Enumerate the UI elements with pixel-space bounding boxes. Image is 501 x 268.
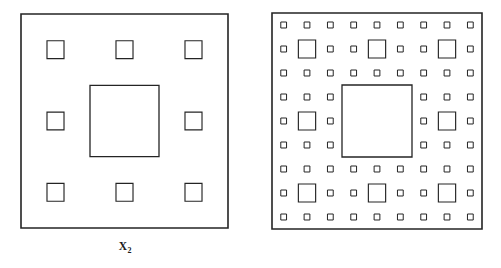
carpet-hole-level-3 <box>374 70 380 76</box>
carpet-hole-level-2 <box>438 184 455 202</box>
carpet-hole-level-3 <box>281 190 287 196</box>
figure-panel-x2: X2 <box>0 0 250 268</box>
carpet-hole-level-3 <box>304 70 310 76</box>
carpet-hole-level-3 <box>327 166 333 172</box>
carpet-hole-level-3 <box>467 22 473 28</box>
carpet-hole-level-2 <box>185 112 202 130</box>
carpet-hole-level-3 <box>467 142 473 148</box>
carpet-hole-level-2 <box>438 112 455 130</box>
carpet-hole-level-3 <box>327 22 333 28</box>
carpet-hole-level-3 <box>397 22 403 28</box>
carpet-hole-level-2 <box>185 183 202 201</box>
carpet-hole-level-3 <box>304 142 310 148</box>
carpet-hole-level-3 <box>421 22 427 28</box>
carpet-hole-level-3 <box>351 214 357 220</box>
carpet-hole-level-2 <box>47 183 64 201</box>
carpet-hole-level-2 <box>438 40 455 58</box>
carpet-hole-level-3 <box>421 94 427 100</box>
carpet-hole-level-3 <box>374 166 380 172</box>
carpet-hole-level-3 <box>304 94 310 100</box>
carpet-hole-level-2 <box>298 112 315 130</box>
carpet-hole-level-3 <box>281 142 287 148</box>
carpet-hole-level-3 <box>467 190 473 196</box>
figure-label-x2-base: X <box>119 240 128 252</box>
carpet-hole-level-3 <box>421 190 427 196</box>
carpet-hole-level-2 <box>47 41 64 59</box>
carpet-hole-level-3 <box>281 214 287 220</box>
carpet-hole-level-3 <box>397 214 403 220</box>
carpet-hole-level-3 <box>444 214 450 220</box>
carpet-hole-level-3 <box>351 46 357 52</box>
carpet-hole-level-3 <box>304 22 310 28</box>
carpet-hole-level-3 <box>397 70 403 76</box>
carpet-hole-level-3 <box>374 214 380 220</box>
carpet-hole-level-3 <box>444 142 450 148</box>
carpet-hole-level-2 <box>116 41 133 59</box>
carpet-hole-level-3 <box>444 94 450 100</box>
figure-label-x2-subscript: 2 <box>127 246 131 255</box>
carpet-hole-level-3 <box>421 46 427 52</box>
carpet-hole-level-3 <box>421 166 427 172</box>
carpet-hole-level-1 <box>342 85 412 157</box>
carpet-hole-level-3 <box>421 142 427 148</box>
carpet-hole-level-3 <box>397 190 403 196</box>
carpet-hole-level-3 <box>281 46 287 52</box>
carpet-hole-level-2 <box>47 112 64 130</box>
carpet-hole-level-3 <box>281 94 287 100</box>
carpet-hole-level-3 <box>421 70 427 76</box>
carpet-hole-level-3 <box>327 190 333 196</box>
carpet-hole-level-2 <box>185 41 202 59</box>
carpet-hole-level-1 <box>90 85 159 156</box>
carpet-hole-level-3 <box>397 46 403 52</box>
carpet-hole-level-3 <box>467 214 473 220</box>
sierpinski-carpet-x2 <box>0 0 250 238</box>
carpet-hole-level-3 <box>351 166 357 172</box>
carpet-hole-level-3 <box>281 118 287 124</box>
carpet-hole-level-3 <box>467 94 473 100</box>
carpet-hole-level-2 <box>298 184 315 202</box>
carpet-hole-level-3 <box>281 166 287 172</box>
carpet-hole-level-3 <box>421 118 427 124</box>
carpet-hole-level-2 <box>298 40 315 58</box>
carpet-hole-level-3 <box>327 46 333 52</box>
carpet-hole-level-3 <box>467 70 473 76</box>
carpet-hole-level-2 <box>368 184 385 202</box>
carpet-hole-level-3 <box>444 22 450 28</box>
carpet-hole-level-3 <box>327 142 333 148</box>
carpet-hole-level-3 <box>304 214 310 220</box>
carpet-hole-level-3 <box>327 214 333 220</box>
carpet-outer-frame <box>272 13 482 229</box>
carpet-hole-level-3 <box>304 166 310 172</box>
carpet-hole-level-3 <box>327 70 333 76</box>
carpet-hole-level-3 <box>444 70 450 76</box>
carpet-hole-level-3 <box>351 190 357 196</box>
carpet-hole-level-3 <box>327 94 333 100</box>
figure-label-x2: X2 <box>0 240 250 252</box>
carpet-hole-level-3 <box>467 166 473 172</box>
sierpinski-carpet-x3 <box>251 0 501 238</box>
carpet-hole-level-3 <box>421 214 427 220</box>
carpet-hole-level-3 <box>467 46 473 52</box>
carpet-hole-level-3 <box>351 70 357 76</box>
carpet-hole-level-2 <box>116 183 133 201</box>
carpet-hole-level-3 <box>281 22 287 28</box>
carpet-hole-level-3 <box>374 22 380 28</box>
carpet-hole-level-3 <box>327 118 333 124</box>
carpet-hole-level-3 <box>281 70 287 76</box>
figure-panel-x3: X3 <box>251 0 501 268</box>
carpet-hole-level-3 <box>467 118 473 124</box>
carpet-hole-level-3 <box>397 166 403 172</box>
carpet-hole-level-3 <box>351 22 357 28</box>
carpet-outer-frame <box>21 14 228 228</box>
carpet-hole-level-2 <box>368 40 385 58</box>
carpet-hole-level-3 <box>444 166 450 172</box>
